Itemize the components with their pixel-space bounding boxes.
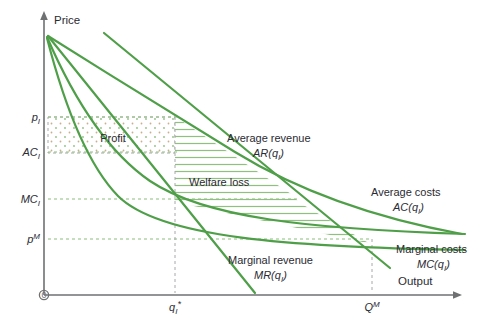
profit-label: Profit [100,132,126,144]
label-marginal-costs-line1: Marginal costs [396,243,467,255]
svg-text:MC(qI): MC(qI) [417,258,450,273]
label-marginal-costs: Marginal costs MC(qI) [396,243,467,273]
origin-zero-label: 0 [36,287,52,303]
label-average-revenue-line1: Average revenue [227,132,311,144]
y-axis-label: Price [54,14,80,26]
svg-text:pI: pI [31,111,41,126]
x-axis-label: Output [398,275,433,287]
label-marginal-revenue-base: MR [254,269,271,281]
y-tick-p-I: pI [31,111,41,126]
svg-text:MR(qI): MR(qI) [254,269,287,284]
y-axis-arrow [40,11,48,20]
label-average-costs-line1: Average costs [371,186,441,198]
y-tick-p-I-sub: I [38,117,41,126]
x-tick-Q-sup: M [373,300,380,309]
svg-text:ACI: ACI [21,146,40,161]
x-tick-q-I-star: qI* [169,299,181,316]
y-tick-MC-I-base: MC [21,193,38,205]
label-average-costs-base: AC [392,201,408,213]
diagram-canvas: Price Output 0 pI ACI MCI pM qI* [0,0,489,323]
y-tick-p-M: pM [26,232,40,245]
svg-text:pM: pM [26,232,40,245]
svg-text:QM: QM [364,300,380,313]
y-tick-p-M-sup: M [33,232,40,241]
y-tick-MC-I-sub: I [38,199,41,208]
label-marginal-costs-base: MC [417,258,434,270]
y-tick-MC-I: MCI [21,193,41,208]
welfare-loss-label: Welfare loss [189,176,250,188]
svg-text:MCI: MCI [21,193,41,208]
y-tick-p-M-base: p [26,233,33,245]
x-tick-Q-M: QM [364,300,380,313]
economics-diagram: Price Output 0 pI ACI MCI pM qI* [0,0,489,323]
label-marginal-revenue: Marginal revenue MR(qI) [228,254,313,284]
y-tick-p-I-base: p [31,111,38,123]
label-marginal-revenue-line1: Marginal revenue [228,254,313,266]
x-axis-arrow [453,291,462,299]
svg-text:AC(qI): AC(qI) [392,201,424,216]
label-average-costs: Average costs AC(qI) [371,186,441,216]
y-tick-AC-I-sub: I [38,152,41,161]
label-average-revenue-base: AR [252,147,268,159]
svg-text:qI*: qI* [169,299,181,316]
y-tick-AC-I: ACI [21,146,40,161]
y-tick-AC-I-base: AC [21,146,37,158]
x-tick-q-sup: * [177,299,181,309]
